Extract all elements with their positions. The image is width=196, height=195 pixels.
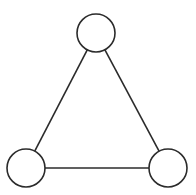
node-bottom-right (149, 149, 187, 187)
nodes-group (7, 14, 187, 187)
edge-top-to-bottom-right (105, 50, 159, 151)
node-bottom-left (7, 149, 45, 187)
edges-group (35, 50, 159, 168)
triangle-graph-diagram (0, 0, 196, 195)
edge-top-to-bottom-left (35, 50, 88, 151)
node-top (77, 14, 115, 52)
